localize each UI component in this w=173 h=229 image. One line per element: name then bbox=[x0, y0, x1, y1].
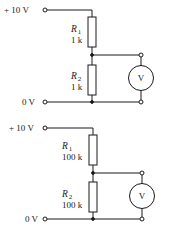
resistor-r2 bbox=[88, 65, 96, 95]
ground-label: 0 V bbox=[25, 214, 38, 224]
supply-label: + 10 V bbox=[9, 123, 34, 133]
r2-value: 100 k bbox=[62, 200, 82, 210]
r1-value: 100 k bbox=[62, 152, 82, 162]
ground-label: 0 V bbox=[22, 97, 35, 107]
voltage-divider-circuit-2: + 10 V R1 100 k R2 100 k 0 V V bbox=[0, 115, 173, 229]
resistor-r1 bbox=[88, 17, 96, 47]
supply-terminal bbox=[43, 8, 47, 12]
ground-terminal bbox=[43, 100, 47, 104]
voltage-divider-circuit-1: + 10 V R1 1 k R2 1 k 0 V V bbox=[0, 0, 173, 114]
r1-value: 1 k bbox=[71, 35, 82, 45]
supply-label: + 10 V bbox=[4, 5, 29, 15]
voltmeter-label: V bbox=[132, 191, 152, 201]
r2-value: 1 k bbox=[71, 82, 82, 92]
voltmeter-label: V bbox=[131, 73, 151, 83]
